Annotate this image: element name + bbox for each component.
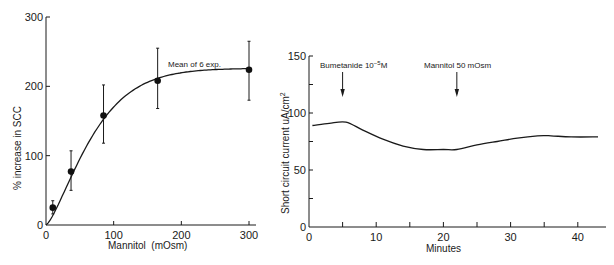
right-x-tick-label: 10 [370, 231, 382, 243]
right-x-tick-label: 0 [306, 231, 312, 243]
right-y-axis-label-text: Short circuit current uA/cm [280, 96, 291, 214]
left-x-tick-label: 0 [43, 229, 49, 241]
left-annotation: Mean of 6 exp. [168, 60, 221, 69]
right-tick-labels: 050100150010203040 [288, 50, 584, 243]
left-y-axis-label: % increase in SCC [12, 106, 23, 190]
marker [68, 168, 75, 175]
mannitol-arrow-icon [455, 72, 459, 97]
left-y-tick-label: 200 [25, 80, 43, 92]
right-x-tick-label: 30 [504, 231, 516, 243]
left-tick-labels: 01002003000100200300 [25, 11, 259, 241]
left-chart: 01002003000100200300 Mean of 6 exp. Mann… [12, 11, 258, 251]
right-x-tick-label: 40 [572, 231, 584, 243]
left-x-tick-label: 300 [240, 229, 258, 241]
right-x-tick-label: 20 [437, 231, 449, 243]
bumetanide-annotation: Bumetanide 10−5M [320, 60, 388, 70]
bumetanide-label: Bumetanide 10 [320, 61, 374, 70]
marker [49, 204, 56, 211]
left-y-tick-label: 300 [25, 11, 43, 23]
data-point [100, 85, 107, 143]
data-point [246, 41, 253, 100]
right-arrows [340, 72, 459, 97]
left-axes [46, 17, 256, 225]
right-y-axis-label-sup: 2 [279, 92, 286, 96]
marker [154, 77, 161, 84]
data-point [68, 151, 75, 191]
right-scc-trace [312, 122, 598, 150]
right-chart: 050100150010203040 Bumetanide 10−5M Mann… [279, 50, 606, 254]
left-y-tick-label: 100 [25, 150, 43, 162]
right-x-axis-label: Minutes [426, 243, 461, 254]
figure: 01002003000100200300 Mean of 6 exp. Mann… [0, 0, 614, 265]
left-data-points [49, 41, 252, 214]
right-axes [309, 56, 606, 227]
mannitol-annotation: Mannitol 50 mOsm [424, 61, 491, 70]
data-point [154, 48, 161, 108]
left-x-axis-label: Mannitol (mOsm) [108, 240, 187, 251]
right-y-tick-label: 50 [294, 164, 306, 176]
marker [100, 112, 107, 119]
bumetanide-arrow-icon [340, 72, 344, 97]
left-fit-curve [46, 69, 249, 225]
right-y-tick-label: 150 [288, 50, 306, 62]
marker [246, 66, 253, 73]
bumetanide-unit: M [381, 61, 388, 70]
right-y-axis-label: Short circuit current uA/cm2 [279, 92, 291, 214]
